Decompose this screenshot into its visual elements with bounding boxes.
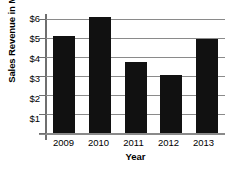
x-tick-label: 2009: [46, 136, 81, 149]
y-tick-mark: [39, 114, 46, 115]
y-tick-label: $6: [18, 14, 40, 24]
bar-2009: [53, 36, 75, 133]
y-tick-mark: [39, 19, 46, 20]
y-tick-label: $2: [18, 94, 40, 104]
y-tick-mark: [39, 57, 46, 58]
gridline: [46, 19, 225, 20]
bar-2011: [125, 62, 147, 133]
y-tick-label: $1: [18, 114, 40, 124]
x-axis-title: Year: [46, 151, 225, 163]
y-tick-label: $4: [18, 54, 40, 64]
x-axis-tick-labels: 2009 2010 2011 2012 2013: [46, 136, 225, 150]
y-axis-tick-labels: $6 $5 $4 $3 $2 $1: [16, 0, 40, 170]
bar-chart: Sales Revenue in Millions $6 $5 $4 $3 $2…: [0, 0, 236, 170]
y-tick-label: $3: [18, 74, 40, 84]
y-tick-mark: [39, 76, 46, 77]
x-tick-label: 2011: [116, 136, 151, 149]
x-tick-label: 2012: [151, 136, 186, 149]
plot-area: [46, 14, 225, 133]
y-tick-mark: [39, 38, 46, 39]
bar-2012: [160, 75, 182, 133]
x-axis-origin-tick: [39, 133, 46, 134]
bar-2010: [89, 17, 111, 133]
x-axis-line: [39, 133, 225, 135]
y-tick-label: $5: [18, 34, 40, 44]
y-tick-mark: [39, 95, 46, 96]
x-tick-label: 2013: [186, 136, 221, 149]
bar-2013: [196, 39, 218, 133]
x-tick-label: 2010: [81, 136, 116, 149]
